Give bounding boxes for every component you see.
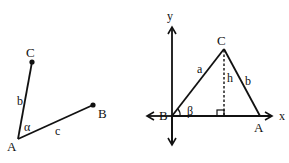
label-b: B bbox=[159, 108, 168, 123]
side-label-b: b bbox=[17, 94, 23, 108]
label-c: C bbox=[217, 33, 226, 48]
angle-label-beta: β bbox=[187, 104, 193, 118]
x-axis-label: x bbox=[279, 109, 285, 123]
side-a bbox=[172, 49, 224, 116]
side-label-c: c bbox=[55, 124, 60, 138]
angle-label-alpha: α bbox=[24, 120, 31, 134]
diagram-canvas: C B A b c α y x C B A a b h β bbox=[0, 0, 289, 163]
y-axis-label: y bbox=[167, 9, 173, 23]
label-b: B bbox=[98, 106, 107, 121]
right-triangle-figure: y x C B A a b h β bbox=[147, 9, 285, 145]
side-label-a: a bbox=[197, 62, 203, 76]
label-a: A bbox=[7, 139, 17, 154]
label-c: C bbox=[26, 45, 35, 60]
point-b-dot bbox=[90, 102, 95, 107]
height-label-h: h bbox=[227, 71, 233, 85]
left-angle-figure: C B A b c α bbox=[7, 45, 107, 154]
angle-arc-beta bbox=[178, 109, 180, 116]
side-label-b: b bbox=[245, 74, 251, 88]
label-a: A bbox=[254, 120, 264, 135]
point-c-dot bbox=[29, 59, 34, 64]
